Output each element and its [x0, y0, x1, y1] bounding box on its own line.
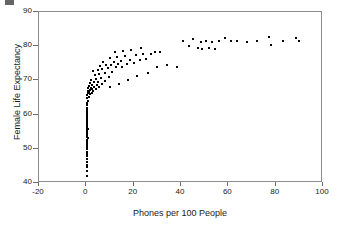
- data-point: [121, 66, 123, 68]
- data-point: [86, 94, 88, 96]
- data-point: [230, 40, 232, 42]
- y-tick-label: 70: [0, 75, 32, 83]
- data-point: [86, 175, 88, 177]
- data-point: [142, 53, 144, 55]
- x-tick-label: 100: [302, 188, 342, 196]
- data-point: [115, 66, 117, 68]
- x-tick-mark: [180, 182, 181, 186]
- data-point: [87, 90, 89, 92]
- data-point: [98, 73, 100, 75]
- data-point: [133, 62, 135, 64]
- data-point: [86, 144, 88, 146]
- data-point: [86, 164, 88, 166]
- x-tick-label: 20: [113, 188, 153, 196]
- data-point: [211, 41, 213, 43]
- data-point: [99, 65, 101, 67]
- data-point: [145, 58, 147, 60]
- data-point: [100, 77, 102, 79]
- x-tick-mark: [275, 182, 276, 186]
- data-point: [86, 170, 88, 172]
- data-point: [86, 117, 88, 119]
- data-point: [129, 59, 131, 61]
- data-point: [208, 47, 210, 49]
- data-point: [246, 41, 248, 43]
- x-tick-mark: [227, 182, 228, 186]
- data-point: [182, 40, 184, 42]
- data-point: [156, 66, 158, 68]
- data-point: [89, 93, 91, 95]
- data-point: [98, 86, 100, 88]
- data-point: [93, 86, 95, 88]
- data-point: [86, 118, 88, 120]
- x-axis-title: Phones per 100 People: [38, 208, 322, 218]
- data-point: [105, 64, 107, 66]
- data-point: [95, 88, 97, 90]
- data-point: [86, 166, 88, 168]
- data-point: [107, 67, 109, 69]
- data-point: [118, 83, 120, 85]
- y-tick-label: 40: [0, 178, 32, 186]
- data-point: [140, 47, 142, 49]
- x-tick-mark: [133, 182, 134, 186]
- data-point: [86, 151, 88, 153]
- data-point: [104, 80, 106, 82]
- data-point: [91, 84, 93, 86]
- data-point: [95, 78, 97, 80]
- data-point: [192, 38, 194, 40]
- data-point: [188, 45, 190, 47]
- data-point: [108, 76, 110, 78]
- data-point: [197, 47, 199, 49]
- data-point: [86, 115, 88, 117]
- data-point: [86, 107, 88, 109]
- data-point: [86, 109, 88, 111]
- x-tick-label: 60: [207, 188, 247, 196]
- data-point: [214, 48, 216, 50]
- data-point: [97, 69, 99, 71]
- data-point: [96, 84, 98, 86]
- data-point: [150, 53, 152, 55]
- data-point: [205, 40, 207, 42]
- x-tick-mark: [38, 182, 39, 186]
- data-point: [126, 63, 128, 65]
- data-point: [94, 74, 96, 76]
- data-point: [89, 82, 91, 84]
- data-point: [101, 83, 103, 85]
- data-point: [282, 40, 284, 42]
- data-point: [87, 100, 89, 102]
- data-point: [218, 40, 220, 42]
- data-point: [136, 75, 138, 77]
- data-point: [114, 51, 116, 53]
- data-point: [90, 79, 92, 81]
- x-tick-mark: [85, 182, 86, 186]
- data-point: [90, 87, 92, 89]
- data-point: [295, 37, 297, 39]
- data-point: [86, 102, 88, 104]
- x-tick-label: 80: [255, 188, 295, 196]
- data-point: [86, 122, 88, 124]
- x-tick-mark: [322, 182, 323, 186]
- data-point: [86, 161, 88, 163]
- plot-area: [38, 11, 322, 182]
- y-tick-label: 90: [0, 7, 32, 15]
- y-tick-label: 60: [0, 110, 32, 118]
- data-point: [116, 56, 118, 58]
- x-tick-label: 0: [65, 188, 105, 196]
- scatter-plot-figure: Female Life Expectancy 908070605040 -200…: [0, 0, 350, 229]
- data-point: [86, 113, 88, 115]
- data-point: [159, 51, 161, 53]
- data-point: [256, 40, 258, 42]
- y-tick-label: 80: [0, 41, 32, 49]
- data-point: [86, 148, 88, 150]
- data-point: [86, 104, 88, 106]
- x-tick-label: -20: [18, 188, 58, 196]
- data-point: [101, 68, 103, 70]
- data-point: [86, 140, 88, 142]
- data-point: [86, 153, 88, 155]
- data-point: [120, 60, 122, 62]
- data-point: [86, 111, 88, 113]
- data-point: [86, 120, 88, 122]
- data-point: [104, 72, 106, 74]
- data-point: [124, 55, 126, 57]
- data-point: [117, 63, 119, 65]
- data-point: [97, 81, 99, 83]
